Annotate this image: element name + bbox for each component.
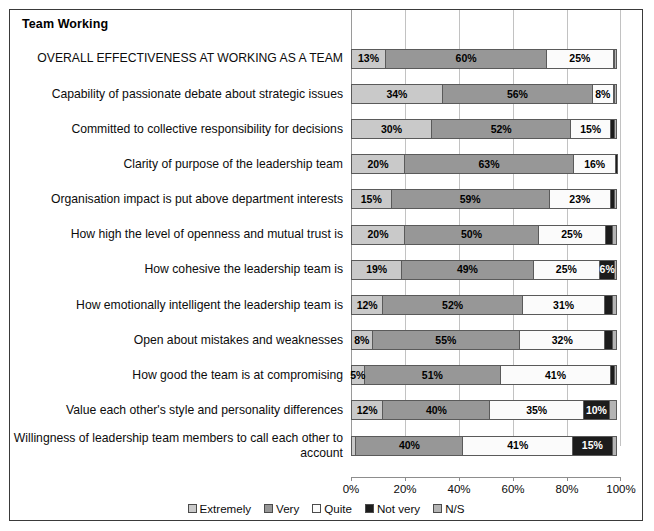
segment-value-label: 20% <box>367 229 388 240</box>
axis-tick <box>351 477 352 481</box>
segment-value-label: 13% <box>358 53 379 64</box>
stacked-bar: 8%55%32% <box>351 330 621 350</box>
legend-item-very[interactable]: Very <box>264 502 299 515</box>
chart-row: Willingness of leadership team members t… <box>10 428 642 463</box>
chart-row: How high the level of openness and mutua… <box>10 217 642 252</box>
stacked-bar: 20%63%16% <box>351 154 621 174</box>
bar-segment-quite: 35% <box>489 400 584 420</box>
segment-value-label: 56% <box>507 89 528 100</box>
legend-item-extremely[interactable]: Extremely <box>188 502 252 515</box>
bar-segment-very: 52% <box>431 119 571 139</box>
bar-segment-ns <box>614 189 617 209</box>
segment-value-label: 40% <box>399 440 420 451</box>
stacked-bar: 20%50%25% <box>351 225 621 245</box>
segment-value-label: 15% <box>361 194 382 205</box>
legend-item-quite[interactable]: Quite <box>312 502 352 515</box>
stacked-bar: 40%41%15% <box>351 436 621 456</box>
segment-value-label: 40% <box>426 405 447 416</box>
bar-segment-very: 55% <box>372 330 521 350</box>
segment-value-label: 5% <box>350 370 365 381</box>
stacked-bar: 12%52%31% <box>351 295 621 315</box>
chart-row: Organisation impact is put above departm… <box>10 182 642 217</box>
stacked-bar: 30%52%15% <box>351 119 621 139</box>
segment-value-label: 25% <box>569 53 590 64</box>
segment-value-label: 35% <box>526 405 547 416</box>
bar-segment-ns <box>612 330 617 350</box>
bar-segment-very: 40% <box>355 436 463 456</box>
bar-segment-extremely: 15% <box>351 189 392 209</box>
bar-segment-very: 60% <box>385 49 547 69</box>
bar-segment-ns <box>612 436 617 456</box>
bar-segment-extremely: 19% <box>351 260 402 280</box>
bar-segment-extremely: 34% <box>351 84 443 104</box>
bar-segment-very: 50% <box>404 225 539 245</box>
chart-legend: ExtremelyVeryQuiteNot veryN/S <box>10 502 642 515</box>
segment-value-label: 59% <box>460 194 481 205</box>
bar-segment-quite: 25% <box>546 49 614 69</box>
chart-container: Team Working OVERALL EFFECTIVENESS AT WO… <box>9 9 643 521</box>
chart-row: How cohesive the leadership team is19%49… <box>10 252 642 287</box>
segment-value-label: 8% <box>595 89 610 100</box>
segment-value-label: 15% <box>580 124 601 135</box>
category-label: Clarity of purpose of the leadership tea… <box>10 157 351 172</box>
bar-segment-extremely: 12% <box>351 295 383 315</box>
segment-value-label: 52% <box>442 300 463 311</box>
bar-segment-notvery <box>615 154 618 174</box>
legend-label: Not very <box>377 502 420 515</box>
category-label: Organisation impact is put above departm… <box>10 192 351 207</box>
segment-value-label: 25% <box>556 264 577 275</box>
legend-swatch-icon <box>433 504 442 513</box>
legend-label: Quite <box>324 502 352 515</box>
legend-item-notvery[interactable]: Not very <box>365 502 420 515</box>
segment-value-label: 55% <box>435 335 456 346</box>
segment-value-label: 19% <box>366 264 387 275</box>
category-label: Open about mistakes and weaknesses <box>10 333 351 348</box>
axis-tick <box>459 477 460 481</box>
bar-segment-quite: 25% <box>533 260 601 280</box>
bar-segment-notvery: 10% <box>583 400 610 420</box>
chart-row: How emotionally intelligent the leadersh… <box>10 287 642 322</box>
bar-segment-ns <box>609 400 617 420</box>
stacked-bar: 13%60%25% <box>351 49 621 69</box>
bar-segment-quite: 41% <box>500 365 611 385</box>
axis-tick-label: 0% <box>343 483 360 495</box>
category-label: OVERALL EFFECTIVENESS AT WORKING AS A TE… <box>10 51 351 66</box>
bar-segment-very: 59% <box>391 189 550 209</box>
segment-value-label: 52% <box>491 124 512 135</box>
bar-segment-extremely: 13% <box>351 49 386 69</box>
stacked-bar: 19%49%25%6% <box>351 260 621 280</box>
stacked-bar: 5%51%41% <box>351 365 621 385</box>
segment-value-label: 60% <box>456 53 477 64</box>
bar-segment-very: 40% <box>382 400 490 420</box>
bar-segment-extremely: 8% <box>351 330 373 350</box>
axis-tick <box>620 477 621 481</box>
segment-value-label: 10% <box>586 405 607 416</box>
bar-segment-ns <box>612 295 617 315</box>
chart-row: OVERALL EFFECTIVENESS AT WORKING AS A TE… <box>10 41 642 76</box>
axis-tick-label: 80% <box>555 483 578 495</box>
axis-tick-label: 20% <box>393 483 416 495</box>
x-axis-line <box>351 477 621 478</box>
legend-item-ns[interactable]: N/S <box>433 502 464 515</box>
chart-row: Capability of passionate debate about st… <box>10 76 642 111</box>
category-label: Willingness of leadership team members t… <box>10 431 351 460</box>
segment-value-label: 31% <box>553 300 574 311</box>
chart-row: Open about mistakes and weaknesses8%55%3… <box>10 323 642 358</box>
chart-row: How good the team is at compromising5%51… <box>10 358 642 393</box>
category-label: How cohesive the leadership team is <box>10 262 351 277</box>
stacked-bar: 12%40%35%10% <box>351 400 621 420</box>
bar-segment-quite: 16% <box>573 154 616 174</box>
bar-segment-ns <box>612 225 617 245</box>
bar-segment-quite: 8% <box>592 84 614 104</box>
category-label: How high the level of openness and mutua… <box>10 227 351 242</box>
chart-row: Value each other's style and personality… <box>10 393 642 428</box>
bar-segment-notvery: 15% <box>572 436 613 456</box>
bar-segment-extremely: 20% <box>351 154 405 174</box>
bar-segment-very: 52% <box>382 295 522 315</box>
segment-value-label: 41% <box>507 440 528 451</box>
bar-segment-ns <box>614 49 617 69</box>
segment-value-label: 6% <box>600 264 615 275</box>
bar-segment-extremely: 30% <box>351 119 432 139</box>
segment-value-label: 25% <box>561 229 582 240</box>
segment-value-label: 34% <box>386 89 407 100</box>
